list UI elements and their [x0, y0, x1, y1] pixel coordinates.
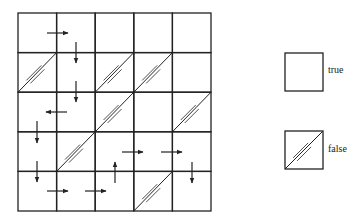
legend-label-true: true [328, 64, 344, 75]
cell-r0-c3-true [134, 13, 173, 53]
cell-r2-c2-false [95, 92, 134, 132]
cell-r2-c4-false [172, 92, 211, 132]
legend-label-false: false [328, 143, 347, 154]
grid-diagram [0, 0, 361, 218]
legend-swatch-true [285, 53, 323, 91]
cell-r1-c2-false [95, 53, 134, 93]
cell-r2-c3-true [134, 92, 173, 132]
cell-r1-c4-true [172, 53, 211, 93]
cell-r4-c3-false [134, 171, 173, 211]
cell-r0-c2-true [95, 13, 134, 53]
cell-r0-c4-true [172, 13, 211, 53]
legend [285, 53, 323, 169]
cell-r1-c3-false [134, 53, 173, 93]
cell-r3-c1-false [57, 132, 96, 172]
legend-swatch-false [285, 131, 323, 169]
cell-r1-c0-false [18, 53, 57, 93]
